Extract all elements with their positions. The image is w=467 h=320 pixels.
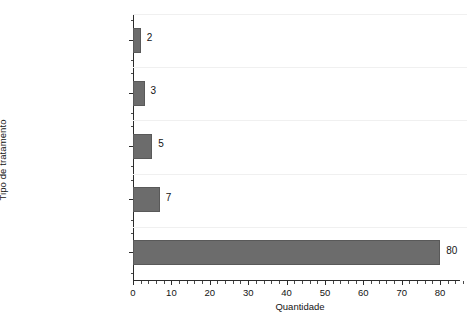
bar[interactable] <box>133 240 440 265</box>
x-axis-tick-label: 60 <box>358 287 369 298</box>
category-minor-tick <box>131 273 134 274</box>
x-axis-tick-label: 50 <box>320 287 331 298</box>
x-axis-minor-tick <box>240 281 241 284</box>
x-axis-minor-tick <box>217 281 218 284</box>
x-axis-line <box>133 280 460 281</box>
gridline <box>133 120 467 121</box>
x-axis-minor-tick <box>463 281 464 284</box>
x-axis-minor-tick <box>271 281 272 284</box>
x-axis-minor-tick <box>394 281 395 284</box>
bar[interactable] <box>133 187 160 212</box>
bar-value-label: 2 <box>147 32 153 43</box>
x-axis-minor-tick <box>448 281 449 284</box>
x-axis-tick <box>440 281 441 285</box>
x-axis-minor-tick <box>425 281 426 284</box>
category-minor-tick <box>131 166 134 167</box>
category-row: Lodos Ativados com Remoção Biológica de … <box>133 67 467 120</box>
x-axis-tick <box>133 281 134 285</box>
x-axis-minor-tick <box>432 281 433 284</box>
category-row: Lodos Ativados com Remoção Físico Químic… <box>133 120 467 173</box>
x-axis-minor-tick <box>317 281 318 284</box>
x-axis-minor-tick <box>141 281 142 284</box>
x-axis-minor-tick <box>371 281 372 284</box>
x-axis-tick-label: 80 <box>435 287 446 298</box>
category-minor-tick <box>131 73 134 74</box>
x-axis-minor-tick <box>333 281 334 284</box>
x-axis-minor-tick <box>356 281 357 284</box>
category-minor-tick <box>131 60 134 61</box>
x-axis-minor-tick <box>256 281 257 284</box>
x-axis-minor-tick <box>310 281 311 284</box>
x-axis-tick <box>402 281 403 285</box>
bar[interactable] <box>133 28 141 53</box>
category-minor-tick <box>131 113 134 114</box>
x-axis-minor-tick <box>164 281 165 284</box>
category-minor-tick <box>131 126 134 127</box>
x-axis-minor-tick <box>409 281 410 284</box>
x-axis-tick-label: 10 <box>166 287 177 298</box>
x-axis-minor-tick <box>194 281 195 284</box>
bar[interactable] <box>133 81 145 106</box>
x-axis-tick-label: 40 <box>281 287 292 298</box>
bar-value-label: 80 <box>446 245 457 256</box>
bar-value-label: 7 <box>166 192 172 203</box>
gridline <box>133 67 467 68</box>
category-row: Lodos Ativados em Batelada (Convencional… <box>133 227 467 280</box>
x-axis-minor-tick <box>264 281 265 284</box>
x-axis-title: Quantidade <box>133 301 467 312</box>
x-axis-tick <box>210 281 211 285</box>
x-axis-minor-tick <box>156 281 157 284</box>
x-axis-minor-tick <box>202 281 203 284</box>
gridline <box>133 14 467 15</box>
category-row: Lodos Ativados - Rem. N (MBBR/IFAS)7 <box>133 174 467 227</box>
x-axis-tick-label: 30 <box>243 287 254 298</box>
gridline <box>133 227 467 228</box>
x-axis-minor-tick <box>340 281 341 284</box>
x-axis-minor-tick <box>233 281 234 284</box>
x-axis-minor-tick <box>187 281 188 284</box>
x-axis-minor-tick <box>348 281 349 284</box>
y-axis-title: Tipo de tratamento <box>0 0 16 320</box>
x-axis-tick <box>248 281 249 285</box>
x-axis-tick <box>287 281 288 285</box>
category-minor-tick <box>131 233 134 234</box>
x-axis-tick <box>171 281 172 285</box>
plot-area: Lodos Ativados com Remoção Biológica de … <box>133 14 467 280</box>
category-minor-tick <box>131 220 134 221</box>
bar-value-label: 3 <box>151 85 157 96</box>
x-axis-tick-label: 70 <box>396 287 407 298</box>
x-axis-minor-tick <box>455 281 456 284</box>
x-axis-tick-label: 0 <box>130 287 135 298</box>
x-axis-minor-tick <box>225 281 226 284</box>
x-axis-minor-tick <box>279 281 280 284</box>
gridline <box>133 174 467 175</box>
category-minor-tick <box>131 180 134 181</box>
x-axis-minor-tick <box>302 281 303 284</box>
x-axis-tick-label: 20 <box>204 287 215 298</box>
bar-value-label: 5 <box>158 138 164 149</box>
x-axis-tick <box>325 281 326 285</box>
category-row: Lodos Ativados com Remoção Biológica de … <box>133 14 467 67</box>
x-axis-tick <box>363 281 364 285</box>
x-axis-minor-tick <box>417 281 418 284</box>
x-axis-minor-tick <box>379 281 380 284</box>
x-axis-minor-tick <box>179 281 180 284</box>
x-axis-minor-tick <box>294 281 295 284</box>
x-axis-minor-tick <box>386 281 387 284</box>
category-minor-tick <box>131 20 134 21</box>
bar-chart: Tipo de tratamento Lodos Ativados com Re… <box>0 0 467 320</box>
x-axis-minor-tick <box>148 281 149 284</box>
bar[interactable] <box>133 134 152 159</box>
